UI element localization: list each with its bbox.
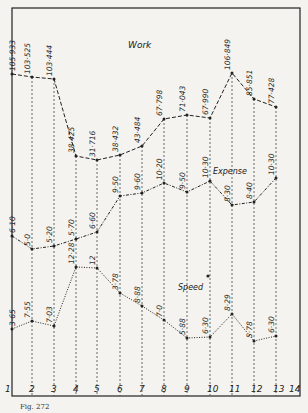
work-value-label: 77·428 (267, 78, 276, 104)
chart-frame (12, 8, 300, 396)
speed-value-label: 3·65 (8, 309, 17, 326)
work-point (75, 155, 78, 158)
x-tick-label: 8 (161, 384, 167, 394)
work-value-label: 106·849 (223, 39, 232, 70)
work-point (141, 145, 144, 148)
expense-value-label: 9·50 (178, 172, 187, 189)
speed-point (186, 337, 189, 340)
expense-point (75, 238, 78, 241)
speed-value-label: 5·88 (178, 318, 187, 335)
work-value-label: 85·851 (245, 70, 254, 96)
expense-value-label: 6·10 (8, 216, 17, 233)
expense-value-label: 10·30 (267, 153, 276, 175)
speed-point (53, 325, 56, 328)
x-tick-label: 1 (5, 384, 11, 394)
figure-caption: Fig. 272 (20, 403, 49, 411)
expense-value-label: 5·20 (45, 226, 54, 243)
expense-point (31, 248, 34, 251)
speed-value-label: 6·30 (267, 316, 276, 333)
x-tick-label: 2 (29, 384, 35, 394)
work-point (11, 73, 14, 76)
speed-line (12, 267, 276, 341)
x-tick-label: 9 (184, 384, 190, 394)
x-tick-label: 4 (73, 384, 79, 394)
expense-point (275, 177, 278, 180)
speed-value-label: 7·03 (45, 306, 54, 323)
speed-point (141, 305, 144, 308)
speed-value-label: 3·78 (111, 273, 120, 290)
speed-point (253, 340, 256, 343)
work-value-label: 103·444 (45, 45, 54, 76)
line-chart: 105·933103·525103·44438·42531·71638·4324… (0, 0, 308, 413)
expense-point (96, 231, 99, 234)
x-tick-label: 6 (117, 384, 123, 394)
x-tick-label: 14 (289, 384, 301, 394)
work-point (119, 154, 122, 157)
expense-value-label: 5·70 (67, 219, 76, 236)
expense-point (231, 204, 234, 207)
speed-value-label: 8·29 (223, 294, 232, 311)
work-point (275, 106, 278, 109)
expense-value-label: 9·50 (111, 176, 120, 193)
speed-point (31, 320, 34, 323)
work-value-label: 103·525 (23, 43, 32, 74)
expense-value-label: 5·0 (23, 234, 32, 246)
x-tick-label: 3 (51, 384, 57, 394)
speed-value-label: 7·55 (23, 301, 32, 318)
expense-value-label: 10·20 (155, 158, 164, 180)
expense-point (163, 182, 166, 185)
speed-value-label: 12 (88, 255, 97, 265)
expense-point (253, 201, 256, 204)
work-value-label: 105·933 (8, 40, 17, 71)
work-value-label: 43·484 (133, 117, 142, 143)
work-point (186, 114, 189, 117)
expense-point (141, 192, 144, 195)
x-tick-label: 7 (139, 384, 145, 394)
expense-series-label: Expense (213, 167, 247, 176)
x-tick-label: 12 (251, 384, 263, 394)
speed-point (75, 266, 78, 269)
x-tick-label: 10 (207, 384, 219, 394)
x-tick-label: 5 (94, 384, 100, 394)
speed-point (275, 335, 278, 338)
expense-point (209, 180, 212, 183)
speed-value-label: 8·88 (133, 286, 142, 303)
expense-value-label: 8·40 (245, 182, 254, 199)
expense-point (11, 235, 14, 238)
speed-value-label: 6·30 (201, 317, 210, 334)
speed-value-label: 7·0 (155, 305, 164, 317)
work-point (96, 159, 99, 162)
speed-series-label: Speed (178, 283, 204, 292)
work-value-label: 38·425 (67, 127, 76, 153)
work-point (253, 98, 256, 101)
work-value-label: 67·990 (201, 89, 210, 115)
work-point (163, 118, 166, 121)
speed-label-marker (206, 274, 209, 277)
work-value-label: 31·716 (88, 131, 97, 157)
x-tick-label: 13 (273, 384, 285, 394)
expense-value-label: 10·30 (201, 156, 210, 178)
speed-point (96, 267, 99, 270)
work-value-label: 67·798 (155, 90, 164, 116)
speed-point (11, 328, 14, 331)
work-value-label: 71·043 (178, 86, 187, 112)
speed-point (231, 313, 234, 316)
expense-point (53, 245, 56, 248)
work-series-label: Work (128, 40, 152, 50)
work-value-label: 38·432 (111, 126, 120, 152)
speed-point (163, 319, 166, 322)
work-point (31, 76, 34, 79)
speed-point (209, 336, 212, 339)
speed-value-label: 12·28 (67, 242, 76, 264)
expense-point (186, 191, 189, 194)
expense-value-label: 6·60 (88, 212, 97, 229)
expense-point (119, 195, 122, 198)
x-tick-label: 11 (229, 384, 240, 394)
work-line (12, 73, 276, 160)
speed-value-label: 5·78 (245, 321, 254, 338)
expense-value-label: 8·30 (223, 185, 232, 202)
work-point (209, 117, 212, 120)
work-point (231, 72, 234, 75)
work-point (53, 78, 56, 81)
speed-point (119, 292, 122, 295)
